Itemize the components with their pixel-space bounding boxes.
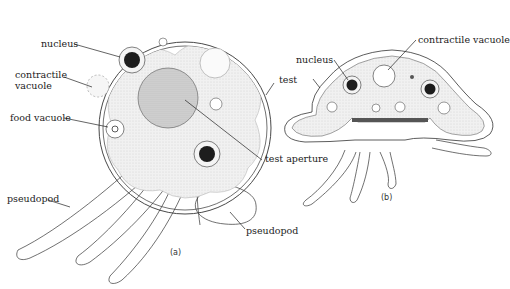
caption-a: (a) [170, 247, 181, 258]
label-test-aperture: test aperture [265, 153, 328, 164]
label-nucleus-b: nucleus [296, 54, 333, 65]
contractile-vacuole-b [373, 65, 395, 87]
label-contractile-vacuole-a-line1: contractile [15, 69, 67, 80]
contractile-vacuole-a [87, 75, 109, 97]
label-food-vacuole: food vacuole [10, 112, 71, 123]
central-mass [138, 68, 198, 128]
label-contractile-vacuole-b: contractile vacuole [418, 34, 510, 45]
label-contractile-vacuole-a-line2: vacuole [15, 80, 52, 91]
food-vacuole-a [106, 120, 124, 138]
label-pseudopod-right: pseudopod [246, 225, 298, 236]
label-test: test [279, 74, 297, 85]
caption-b: (b) [381, 192, 392, 203]
pseudopods-b [303, 140, 491, 206]
label-nucleus-a: nucleus [41, 38, 78, 49]
label-pseudopod-left: pseudopod [7, 193, 59, 204]
